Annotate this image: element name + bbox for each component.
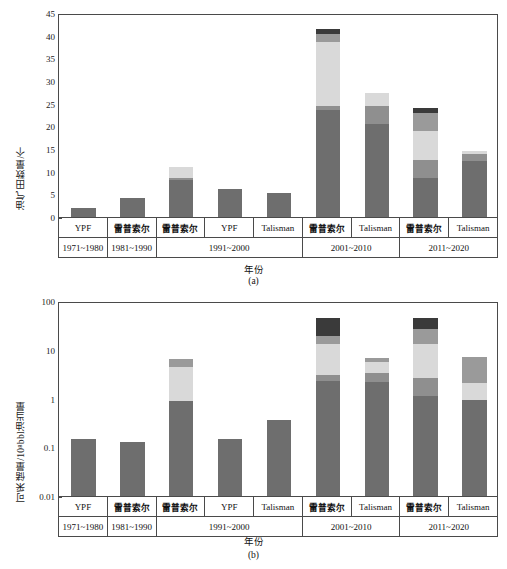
x-axis-company-label: 雷普索尔	[156, 497, 205, 517]
bar	[120, 442, 144, 496]
panel-a-y-tick-label: 20	[46, 122, 55, 132]
bar	[218, 439, 242, 496]
x-axis-company-label: 雷普索尔	[400, 497, 449, 517]
x-axis-company-label: 雷普索尔	[302, 497, 351, 517]
panel-a-x-axis-table: YPF雷普索尔雷普索尔YPFTalisman雷普索尔Talisman雷普索尔Ta…	[58, 218, 498, 258]
panel-a-y-tick-label: 25	[46, 100, 55, 110]
bar	[120, 198, 144, 217]
bar-segment	[365, 362, 389, 373]
bar-segment	[365, 93, 389, 107]
bar-segment	[267, 420, 291, 496]
bar-segment	[316, 42, 340, 106]
bar	[71, 208, 95, 217]
bar	[316, 318, 340, 496]
x-axis-company-label: 雷普索尔	[302, 218, 351, 238]
bar-segment	[462, 161, 486, 217]
panel-a-y-tick-label: 0	[51, 213, 56, 223]
bar-segment	[316, 381, 340, 496]
bar-segment	[413, 344, 437, 378]
x-axis-company-label: Talisman	[449, 218, 498, 238]
x-axis-company-label: YPF	[205, 218, 254, 238]
bar-segment	[71, 439, 95, 496]
bar-segment	[413, 378, 437, 396]
bar-segment	[365, 124, 389, 217]
bar-segment	[413, 160, 437, 179]
panel-a-y-tick-label: 40	[46, 32, 55, 42]
x-axis-company-label: Talisman	[449, 497, 498, 517]
panel-b-y-tick-label: 100	[42, 297, 56, 307]
panel-b: 可采储量/10⁸bbl油当量 0.010.1110100 YPF雷普索尔雷普索尔…	[0, 292, 507, 569]
x-axis-company-label: Talisman	[351, 497, 400, 517]
bar-segment	[218, 189, 242, 217]
x-axis-company-label: Talisman	[254, 218, 303, 238]
bar	[169, 167, 193, 217]
bar-segment	[169, 359, 193, 367]
bar	[462, 151, 486, 217]
bar-segment	[413, 318, 437, 328]
x-axis-period-label: 2001~2010	[302, 238, 400, 258]
panel-a: 油气田数量/个 051015202530354045 YPF雷普索尔雷普索尔YP…	[0, 0, 507, 292]
panel-a-y-tick-label: 10	[46, 168, 55, 178]
bar	[462, 357, 486, 496]
bar	[267, 193, 291, 217]
bar-segment	[267, 193, 291, 217]
bar	[218, 189, 242, 217]
bar	[71, 439, 95, 496]
panel-b-y-tick-label: 0.1	[44, 443, 55, 453]
bar-segment	[413, 131, 437, 160]
panel-a-y-tick-label: 15	[46, 145, 55, 155]
x-axis-period-label: 1981~1990	[107, 238, 156, 258]
x-axis-company-label: YPF	[59, 497, 108, 517]
bar-segment	[316, 318, 340, 336]
bar-segment	[71, 208, 95, 217]
x-axis-company-label: 雷普索尔	[107, 218, 156, 238]
bar	[365, 358, 389, 496]
bar-segment	[316, 336, 340, 344]
x-axis-company-label: 雷普索尔	[107, 497, 156, 517]
panel-a-y-tick-label: 5	[51, 190, 56, 200]
bar-segment	[169, 167, 193, 178]
panel-a-y-tick-label: 45	[46, 9, 55, 19]
bar-segment	[462, 357, 486, 382]
bar-segment	[218, 439, 242, 496]
x-axis-company-label: Talisman	[254, 497, 303, 517]
bar-segment	[365, 373, 389, 382]
bar-segment	[413, 329, 437, 344]
panel-b-x-axis-label: 年份	[0, 534, 507, 548]
panel-b-plot-area	[58, 302, 498, 497]
x-axis-company-label: YPF	[59, 218, 108, 238]
panel-b-y-tick-label: 0.01	[39, 492, 55, 502]
panel-a-plot-area	[58, 14, 498, 218]
bar-segment	[413, 113, 437, 131]
bar	[316, 29, 340, 217]
panel-a-y-axis-label: 油气田数量/个	[14, 40, 28, 210]
bar-segment	[169, 180, 193, 217]
panel-a-y-tick-label: 30	[46, 77, 55, 87]
bar	[169, 359, 193, 496]
panel-b-y-tick-label: 1	[51, 395, 56, 405]
panel-b-bars	[59, 303, 497, 496]
bar-segment	[120, 442, 144, 496]
bar-segment	[462, 154, 486, 161]
bar-segment	[316, 34, 340, 43]
panel-a-x-axis-label: 年份	[0, 262, 507, 276]
bar-segment	[365, 382, 389, 496]
bar-segment	[365, 106, 389, 124]
panel-b-x-axis-table: YPF雷普索尔雷普索尔YPFTalisman雷普索尔Talisman雷普索尔Ta…	[58, 497, 498, 537]
panel-a-caption: (a)	[0, 276, 507, 286]
bar	[413, 318, 437, 496]
panel-b-caption: (b)	[0, 550, 507, 560]
bar-segment	[413, 178, 437, 217]
bar-segment	[462, 400, 486, 496]
bar-segment	[413, 396, 437, 496]
bar-segment	[169, 401, 193, 496]
x-axis-company-label: YPF	[205, 497, 254, 517]
bar-segment	[169, 367, 193, 401]
panel-a-bars	[59, 15, 497, 217]
x-axis-company-label: 雷普索尔	[400, 218, 449, 238]
bar-segment	[462, 383, 486, 400]
bar-segment	[316, 110, 340, 217]
bar-segment	[316, 344, 340, 375]
bar	[365, 93, 389, 217]
x-axis-company-label: Talisman	[351, 218, 400, 238]
